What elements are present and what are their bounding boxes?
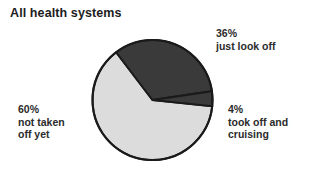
- pie-label-just-look-off: 36% just look off: [216, 27, 276, 52]
- pie-label-just-look-off-percent: 36%: [216, 27, 276, 40]
- pie-label-took-off-and-cruising: 4% took off andcruising: [228, 103, 288, 141]
- pie-label-took-off-and-cruising-percent: 4%: [228, 103, 288, 116]
- pie-label-just-look-off-text: just look off: [216, 40, 276, 53]
- pie-label-not-taken-off-yet-text: not takenoff yet: [18, 116, 65, 141]
- pie-label-not-taken-off-yet-percent: 60%: [18, 103, 65, 116]
- pie-chart-figure: All health systems 36% just look off 4% …: [0, 0, 310, 174]
- pie-label-took-off-and-cruising-text: took off andcruising: [228, 116, 288, 141]
- pie-label-not-taken-off-yet: 60% not takenoff yet: [18, 103, 65, 141]
